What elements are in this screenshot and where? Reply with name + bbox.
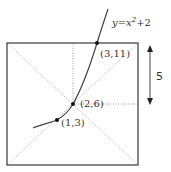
point-label-2-6: (2,6) [80, 98, 104, 109]
equation-eq: =x [118, 17, 132, 28]
point-2-6 [71, 102, 75, 106]
point-1-3 [55, 118, 59, 122]
parabola-square-diagram: (3,11) (2,6) (1,3) y=x2+2 5 [0, 0, 171, 172]
arrow-down-icon [147, 98, 153, 105]
arrow-up-icon [147, 45, 153, 52]
point-label-1-3: (1,3) [61, 117, 85, 128]
parabola-curve [33, 9, 108, 128]
equation-label: y=x2+2 [111, 16, 151, 28]
equation-tail: +2 [136, 17, 151, 28]
point-3-11 [95, 41, 99, 45]
point-label-3-11: (3,11) [100, 48, 130, 59]
dimension-label: 5 [156, 70, 163, 83]
